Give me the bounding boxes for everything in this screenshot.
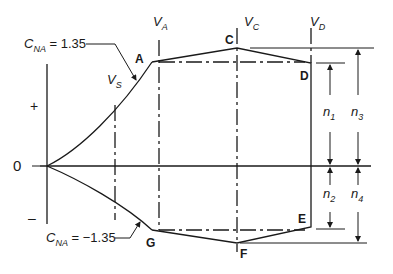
vd-label: VD: [310, 14, 326, 32]
point-e-label: E: [298, 212, 306, 226]
envelope-boundary: [152, 48, 311, 243]
vc-label: VC: [244, 14, 260, 32]
n1-label: n1: [323, 104, 335, 122]
point-g-label: G: [146, 236, 155, 250]
n3-label: n3: [351, 104, 363, 122]
n4-label: n4: [351, 186, 363, 204]
plus-label: +: [30, 98, 38, 114]
n2-label: n2: [323, 186, 335, 204]
point-a-label: A: [135, 52, 144, 66]
vs-label: VS: [107, 72, 122, 90]
negative-stall-curve: [47, 166, 152, 230]
point-f-label: F: [240, 247, 247, 261]
zero-label: 0: [13, 157, 21, 174]
cna-positive-label: CNA = 1.35: [24, 36, 86, 54]
vn-diagram: + 0 – VS VA VC VD A C D E F G CNA = 1.35…: [0, 0, 393, 274]
point-d-label: D: [300, 69, 309, 83]
positive-stall-curve: [47, 62, 152, 166]
cna-neg-leader: [115, 222, 140, 238]
minus-label: –: [28, 210, 36, 226]
va-label: VA: [153, 14, 168, 32]
cna-negative-label: CNA = −1.35: [46, 230, 116, 248]
point-c-label: C: [225, 33, 234, 47]
